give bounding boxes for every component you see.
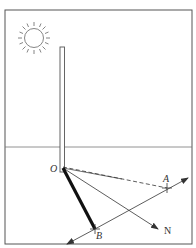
label-b: B — [96, 230, 102, 241]
label-o: O — [50, 163, 57, 174]
label-a: A — [162, 173, 170, 184]
line-ba — [67, 229, 95, 244]
shadow-diagram: O A B N — [0, 0, 196, 248]
diagram-frame — [5, 10, 192, 244]
sun-icon — [18, 22, 50, 54]
shadow-ob — [63, 168, 95, 229]
pole — [60, 47, 65, 172]
label-n: N — [164, 225, 171, 236]
line-ab — [95, 178, 188, 229]
